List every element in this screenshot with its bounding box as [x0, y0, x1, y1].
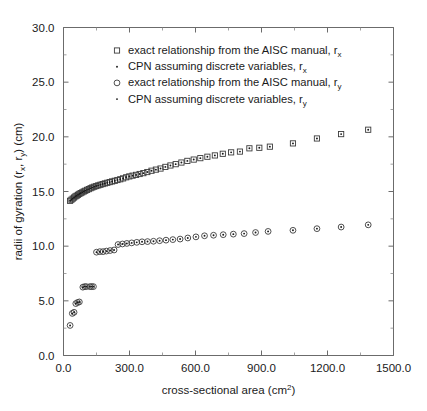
data-point: [292, 142, 294, 144]
data-point: [153, 240, 155, 242]
data-point: [243, 233, 245, 235]
data-point: [106, 182, 108, 184]
data-point: [164, 166, 166, 168]
x-tick-label: 0.0: [56, 362, 72, 374]
data-point: [213, 234, 215, 236]
data-point: [230, 151, 232, 153]
data-point: [142, 172, 144, 174]
data-point: [186, 160, 188, 162]
data-point: [340, 226, 342, 228]
data-point: [78, 301, 80, 303]
data-point: [93, 186, 95, 188]
data-point: [316, 228, 318, 230]
data-point: [135, 174, 137, 176]
data-point: [141, 241, 143, 243]
x-tick-label: 300.0: [115, 362, 144, 374]
data-point: [172, 239, 174, 241]
data-point: [91, 187, 93, 189]
data-point: [122, 177, 124, 179]
y-tick-label: 10.0: [32, 240, 54, 252]
data-point: [102, 183, 104, 185]
data-point: [131, 242, 133, 244]
data-point: [105, 250, 107, 252]
data-point: [99, 251, 101, 253]
y-tick-label: 5.0: [39, 295, 55, 307]
data-point: [132, 175, 134, 177]
data-point: [179, 238, 181, 240]
data-point: [222, 153, 224, 155]
data-point: [113, 249, 115, 251]
data-point: [117, 244, 119, 246]
data-point: [92, 286, 94, 288]
x-tick-label: 600.0: [181, 362, 210, 374]
data-point: [88, 188, 90, 190]
data-point: [126, 242, 128, 244]
x-tick-label: 1200.0: [310, 362, 345, 374]
data-point: [248, 147, 250, 149]
data-point: [84, 286, 86, 288]
x-tick-label: 900.0: [247, 362, 276, 374]
data-point: [95, 185, 97, 187]
data-point: [89, 286, 91, 288]
legend-marker-dot: [116, 98, 118, 100]
data-point: [85, 286, 87, 288]
data-point: [204, 235, 206, 237]
data-point: [119, 178, 121, 180]
data-point: [199, 157, 201, 159]
data-point: [195, 236, 197, 238]
y-tick-label: 25.0: [32, 76, 54, 88]
data-point: [77, 302, 79, 304]
data-point: [75, 303, 77, 305]
data-point: [187, 237, 189, 239]
data-point: [147, 241, 149, 243]
data-point: [82, 286, 84, 288]
data-point: [109, 181, 111, 183]
data-point: [73, 311, 75, 313]
y-tick-label: 30.0: [32, 22, 54, 34]
data-point: [239, 151, 241, 153]
data-point: [175, 163, 177, 165]
data-point: [180, 162, 182, 164]
data-point: [69, 324, 71, 326]
data-point: [193, 159, 195, 161]
data-point: [97, 184, 99, 186]
legend-marker-dot: [116, 66, 118, 68]
data-point: [165, 239, 167, 241]
data-point: [114, 180, 116, 182]
data-point: [232, 233, 234, 235]
data-point: [146, 171, 148, 173]
data-point: [100, 184, 102, 186]
data-point: [169, 165, 171, 167]
data-point: [139, 173, 141, 175]
y-tick-label: 20.0: [32, 131, 54, 143]
data-point: [206, 156, 208, 158]
data-point: [102, 251, 104, 253]
data-point: [258, 147, 260, 149]
data-point: [86, 189, 88, 191]
data-point: [316, 138, 318, 140]
data-point: [125, 176, 127, 178]
y-tick-label: 15.0: [32, 186, 54, 198]
data-point: [255, 232, 257, 234]
data-point: [91, 286, 93, 288]
data-point: [367, 129, 369, 131]
x-axis-title: cross-sectional area (cm2): [162, 383, 296, 396]
data-point: [90, 187, 92, 189]
data-point: [155, 169, 157, 171]
data-point: [128, 175, 130, 177]
data-point: [159, 240, 161, 242]
data-point: [367, 224, 369, 226]
data-point: [109, 250, 111, 252]
data-point: [160, 168, 162, 170]
data-point: [151, 170, 153, 172]
data-point: [96, 251, 98, 253]
y-tick-label: 0.0: [39, 350, 55, 362]
data-point: [136, 241, 138, 243]
data-point: [111, 180, 113, 182]
data-point: [340, 133, 342, 135]
scatter-plot-svg: 0.0300.0600.0900.01200.01500.00.05.010.0…: [0, 0, 427, 411]
data-point: [267, 230, 269, 232]
data-point: [104, 182, 106, 184]
data-point: [116, 179, 118, 181]
data-point: [214, 154, 216, 156]
